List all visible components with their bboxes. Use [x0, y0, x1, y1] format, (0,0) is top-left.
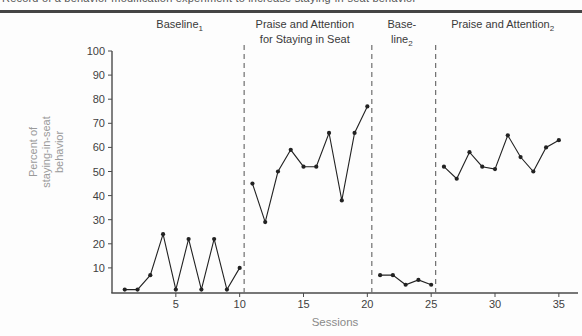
y-tick-label: 70: [93, 117, 105, 129]
y-tick-label: 30: [93, 214, 105, 226]
x-tick-label: 20: [361, 298, 373, 310]
data-point: [429, 283, 433, 287]
y-axis-title-line3: behavior: [53, 131, 65, 174]
data-point: [442, 165, 446, 169]
data-point: [531, 169, 535, 173]
behavior-line-chart: 1020304050607080901005101520253035Baseli…: [0, 0, 582, 336]
y-tick-label: 90: [93, 69, 105, 81]
data-series-line: [252, 106, 367, 222]
data-point: [557, 138, 561, 142]
data-point: [276, 169, 280, 173]
data-point: [174, 287, 178, 291]
data-point: [263, 220, 267, 224]
data-point: [518, 155, 522, 159]
data-point: [365, 104, 369, 108]
data-point: [199, 287, 203, 291]
y-tick-label: 60: [93, 141, 105, 153]
y-axis-title-line2: staying-in-seat: [40, 116, 52, 188]
y-tick-label: 80: [93, 93, 105, 105]
phase-label: Baseline1: [156, 18, 203, 33]
data-point: [161, 232, 165, 236]
y-axis-title-line1: Percent of: [27, 126, 39, 177]
data-point: [493, 167, 497, 171]
data-point: [391, 273, 395, 277]
data-series-line: [444, 135, 559, 178]
y-axis-title: Percent of staying-in-seat behavior: [27, 116, 65, 188]
x-tick-label: 30: [489, 298, 501, 310]
figure-page: Record of a behavior modification experi…: [0, 0, 582, 336]
data-point: [480, 165, 484, 169]
x-tick-label: 25: [425, 298, 437, 310]
x-tick-label: 15: [297, 298, 309, 310]
data-point: [289, 148, 293, 152]
y-tick-label: 20: [93, 238, 105, 250]
data-point: [301, 165, 305, 169]
phase-label: for Staying in Seat: [260, 33, 350, 45]
data-point: [238, 266, 242, 270]
phase-label: Praise and Attention: [256, 18, 354, 30]
y-tick-label: 10: [93, 262, 105, 274]
data-point: [225, 287, 229, 291]
phase-label: Praise and Attention2: [451, 18, 554, 33]
data-point: [148, 273, 152, 277]
phase-label: Base-: [387, 18, 416, 30]
y-tick-label: 50: [93, 166, 105, 178]
data-point: [212, 237, 216, 241]
data-point: [416, 278, 420, 282]
data-point: [455, 177, 459, 181]
x-tick-label: 35: [553, 298, 565, 310]
data-point: [404, 283, 408, 287]
data-series-line: [125, 234, 240, 289]
data-point: [314, 165, 318, 169]
data-point: [506, 133, 510, 137]
x-tick-label: 10: [234, 298, 246, 310]
data-point: [250, 181, 254, 185]
data-point: [123, 287, 127, 291]
data-point: [135, 287, 139, 291]
phase-label: line2: [391, 33, 413, 48]
data-point: [544, 145, 548, 149]
data-point: [340, 198, 344, 202]
data-point: [352, 131, 356, 135]
x-tick-label: 5: [173, 298, 179, 310]
data-point: [327, 131, 331, 135]
y-tick-label: 40: [93, 190, 105, 202]
data-point: [187, 237, 191, 241]
y-tick-label: 100: [87, 45, 105, 57]
data-point: [467, 150, 471, 154]
data-point: [378, 273, 382, 277]
plot-area: 1020304050607080901005101520253035Baseli…: [87, 18, 565, 310]
x-axis-title: Sessions: [312, 316, 359, 328]
